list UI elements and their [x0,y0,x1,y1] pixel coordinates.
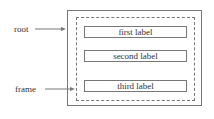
callout-arrows [0,0,214,119]
frame-arrow-icon [45,87,75,91]
root-arrow-icon [35,27,66,31]
